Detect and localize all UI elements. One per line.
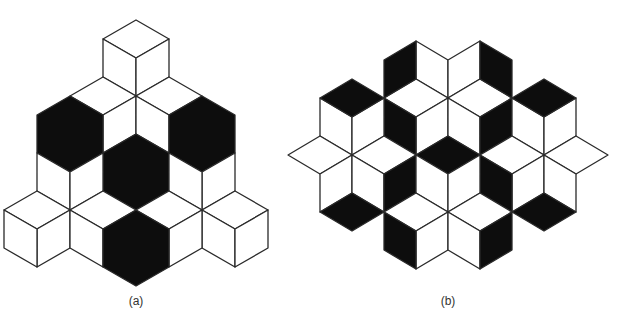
diagram-canvas: [0, 0, 629, 324]
figure-a-caption: (a): [129, 294, 144, 308]
figure-a-tiling: [4, 20, 268, 286]
figure-b-tiling: [288, 41, 608, 269]
figure-b-caption: (b): [441, 294, 456, 308]
